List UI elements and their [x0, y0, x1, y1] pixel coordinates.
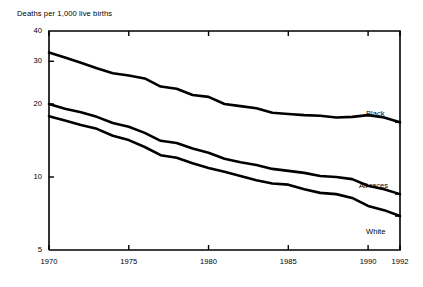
- y-tick-label: 30: [20, 57, 42, 65]
- y-tick-label: 20: [20, 100, 42, 108]
- x-tick-label: 1980: [200, 258, 217, 266]
- series-label-black: Black: [366, 110, 385, 118]
- series-label-white: White: [366, 228, 385, 236]
- x-tick-marks: [49, 31, 400, 250]
- x-tick-label: 1985: [280, 258, 297, 266]
- x-tick-label: 1990: [360, 258, 377, 266]
- infant-mortality-chart: Deaths per 1,000 live births 403020105 1…: [0, 0, 423, 287]
- axis-frame: [49, 31, 400, 250]
- y-tick-label: 10: [20, 173, 42, 181]
- y-tick-label: 5: [20, 246, 42, 254]
- y-tick-label: 40: [20, 27, 42, 35]
- series-line: [49, 116, 400, 216]
- series-line: [49, 53, 400, 123]
- x-tick-label: 1992: [392, 258, 409, 266]
- series-lines: [49, 53, 400, 217]
- x-tick-label: 1975: [120, 258, 137, 266]
- series-label-all-races: All races: [359, 182, 388, 190]
- chart-plot-svg: [0, 0, 423, 287]
- x-tick-label: 1970: [41, 258, 58, 266]
